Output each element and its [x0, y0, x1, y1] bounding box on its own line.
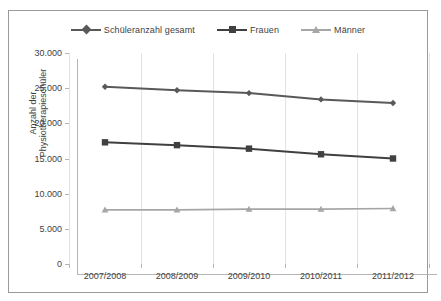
legend-marker — [229, 26, 236, 33]
series-line — [105, 142, 393, 158]
gridline-vertical — [285, 53, 286, 264]
series-diamond — [102, 84, 396, 107]
legend-label-frauen: Frauen — [250, 25, 279, 35]
gridline-vertical — [213, 53, 214, 264]
gridline-vertical — [429, 53, 430, 264]
y-tick-label: 0 — [9, 259, 62, 269]
y-tick-label: 30.000 — [9, 48, 62, 58]
legend-label-maenner: Männer — [334, 25, 365, 35]
legend-label-gesamt: Schüleranzahl gesamt — [104, 25, 195, 35]
data-point-marker — [102, 206, 109, 212]
legend-item-frauen: Frauen — [217, 25, 279, 35]
x-tick-mark — [357, 264, 358, 268]
data-point-marker — [102, 139, 108, 145]
diamond-marker-icon — [71, 25, 101, 35]
y-axis-line — [77, 59, 78, 275]
x-tick-label: 2008/2009 — [141, 271, 213, 281]
chart-legend: Schüleranzahl gesamt Frauen Männer — [9, 25, 427, 35]
data-point-marker — [246, 145, 252, 151]
x-tick-label: 2011/2012 — [357, 271, 429, 281]
y-tick-label: 15.000 — [9, 154, 62, 164]
data-point-marker — [246, 90, 252, 96]
legend-marker — [81, 25, 91, 35]
x-tick-label: 2010/2011 — [285, 271, 357, 281]
x-tick-mark — [69, 264, 70, 268]
y-tick-label: 5.000 — [9, 224, 62, 234]
x-tick-mark — [429, 264, 430, 268]
data-point-marker — [246, 206, 253, 212]
x-tick-mark — [285, 264, 286, 268]
gridline-vertical — [357, 53, 358, 264]
gridline-vertical — [141, 53, 142, 264]
data-point-marker — [174, 142, 180, 148]
chart-series-layer — [9, 11, 441, 301]
legend-item-gesamt: Schüleranzahl gesamt — [71, 25, 195, 35]
data-point-marker — [318, 151, 324, 157]
y-tick-label: 20.000 — [9, 118, 62, 128]
series-line — [105, 208, 393, 209]
data-point-marker — [102, 84, 108, 90]
series-line — [105, 87, 393, 103]
y-tick-label: 10.000 — [9, 189, 62, 199]
square-marker-icon — [217, 25, 247, 35]
x-tick-mark — [213, 264, 214, 268]
series-triangle — [102, 205, 397, 213]
data-point-marker — [318, 206, 325, 212]
chart-frame: Schüleranzahl gesamt Frauen Männer Anzah… — [8, 10, 428, 293]
x-tick-mark — [141, 264, 142, 268]
triangle-marker-icon — [301, 25, 331, 35]
data-point-marker — [390, 155, 396, 161]
data-point-marker — [390, 205, 397, 211]
data-point-marker — [318, 96, 324, 102]
x-tick-label: 2007/2008 — [69, 271, 141, 281]
data-point-marker — [174, 87, 180, 93]
data-point-marker — [390, 100, 396, 106]
x-tick-label: 2009/2010 — [213, 271, 285, 281]
legend-item-maenner: Männer — [301, 25, 365, 35]
series-square — [102, 139, 396, 162]
data-point-marker — [174, 206, 181, 212]
y-tick-label: 25.000 — [9, 83, 62, 93]
gridline-vertical — [69, 53, 70, 264]
legend-marker — [312, 26, 320, 33]
